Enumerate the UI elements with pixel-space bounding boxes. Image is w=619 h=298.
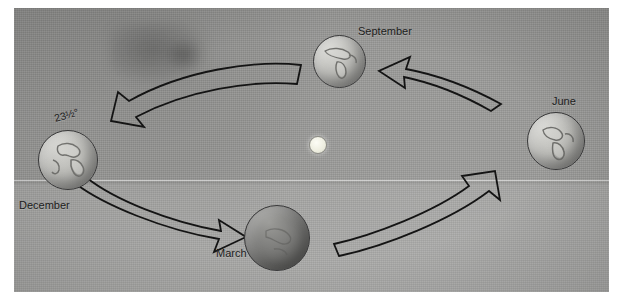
diagram-canvas: 23½° December March [0,0,619,298]
vignette-overlay [14,8,609,292]
illustration-scene: 23½° December March [14,8,609,292]
